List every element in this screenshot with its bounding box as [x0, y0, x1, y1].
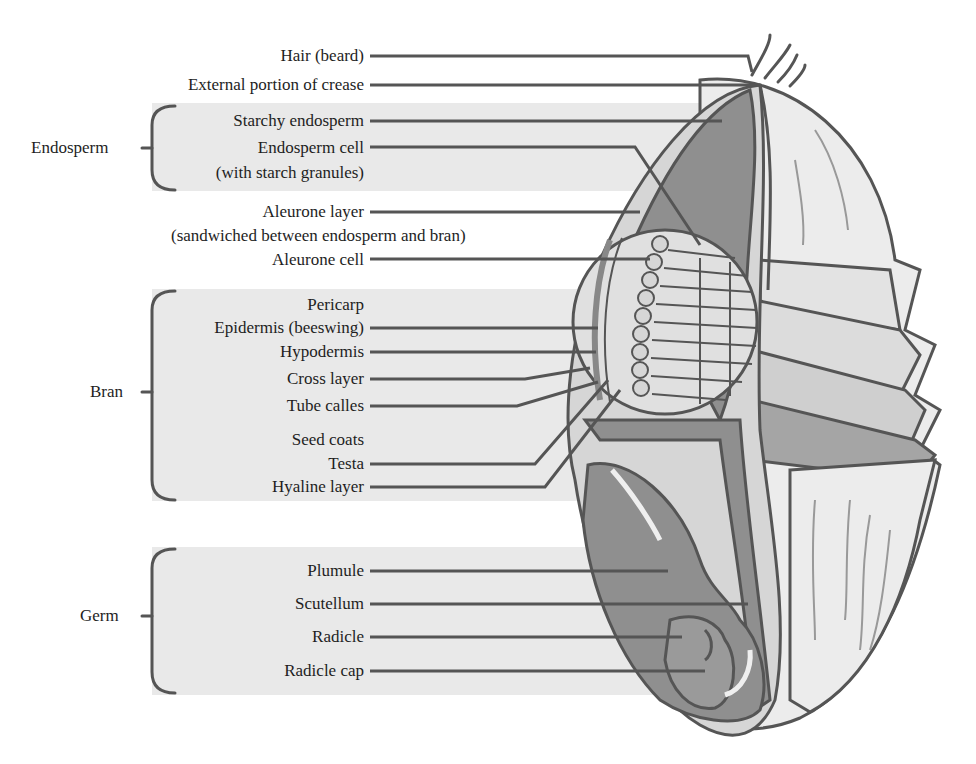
label-aleurone-layer-note: (sandwiched between endosperm and bran): [171, 226, 466, 246]
label-cross-layer: Cross layer: [287, 369, 364, 389]
label-plumule: Plumule: [307, 561, 364, 581]
label-tube-cells: Tube calles: [287, 396, 364, 416]
label-radicle-cap: Radicle cap: [284, 661, 364, 681]
label-hair: Hair (beard): [280, 46, 364, 66]
group-label-bran: Bran: [90, 382, 123, 402]
label-aleurone-cell: Aleurone cell: [272, 250, 364, 270]
label-hyaline-layer: Hyaline layer: [272, 477, 364, 497]
group-label-germ: Germ: [80, 606, 119, 626]
label-seed-coats: Seed coats: [292, 430, 364, 450]
label-scutellum: Scutellum: [295, 594, 364, 614]
label-endosperm-cell: Endosperm cell: [258, 138, 364, 158]
label-hypodermis: Hypodermis: [280, 342, 364, 362]
label-epidermis: Epidermis (beeswing): [214, 318, 364, 338]
label-endosperm-cell-note: (with starch granules): [216, 163, 364, 183]
germ-bracket: [152, 549, 175, 693]
hair-beard: [752, 35, 805, 86]
label-aleurone-layer: Aleurone layer: [263, 202, 364, 222]
wheat-kernel-illustration: [0, 0, 976, 764]
label-radicle: Radicle: [312, 627, 364, 647]
endosperm-bracket: [152, 106, 175, 190]
group-brackets: [142, 106, 175, 693]
label-crease: External portion of crease: [188, 75, 364, 95]
group-label-endosperm: Endosperm: [31, 138, 108, 158]
label-starchy-endosperm: Starchy endosperm: [233, 111, 364, 131]
bran-bracket: [152, 291, 175, 500]
label-pericarp: Pericarp: [307, 295, 364, 315]
label-testa: Testa: [328, 454, 364, 474]
